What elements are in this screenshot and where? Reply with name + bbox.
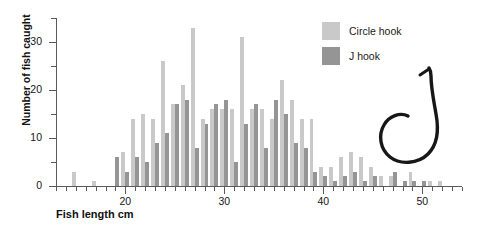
bar-circle-hook: [92, 181, 96, 186]
legend-swatch-circle-hook: [322, 22, 340, 40]
x-tick-minor: [244, 187, 245, 191]
x-tick-major: [125, 187, 126, 194]
bar-j-hook: [165, 133, 169, 186]
bar-j-hook: [264, 148, 268, 186]
bar-j-hook: [155, 143, 159, 186]
x-tick-minor: [403, 187, 404, 191]
x-tick-minor: [214, 187, 215, 191]
bar-j-hook: [214, 104, 218, 186]
x-tick-minor: [86, 187, 87, 191]
x-tick-minor: [284, 187, 285, 191]
x-axis-line: [56, 186, 462, 187]
x-tick-minor: [373, 187, 374, 191]
x-tick-minor: [294, 187, 295, 191]
y-tick-label: 0: [12, 179, 42, 191]
bar-circle-hook: [379, 176, 383, 186]
y-axis-title: Number of fish caught: [20, 0, 32, 150]
bar-j-hook: [125, 172, 129, 186]
bar-j-hook: [343, 176, 347, 186]
x-tick-minor: [56, 187, 57, 191]
x-tick-minor: [135, 187, 136, 191]
x-tick-minor: [66, 187, 67, 191]
x-tick-minor: [254, 187, 255, 191]
x-tick-minor: [145, 187, 146, 191]
x-tick-label: 20: [112, 195, 138, 207]
x-tick-minor: [205, 187, 206, 191]
circle-hook-illustration: [372, 62, 472, 174]
x-tick-minor: [115, 187, 116, 191]
x-tick-minor: [383, 187, 384, 191]
y-tick-major: [49, 90, 56, 91]
x-tick-minor: [304, 187, 305, 191]
x-tick-minor: [333, 187, 334, 191]
x-tick-minor: [234, 187, 235, 191]
bar-j-hook: [205, 124, 209, 186]
chart-figure: 0102030 20304050 Number of fish caught F…: [0, 0, 480, 234]
bar-j-hook: [313, 172, 317, 186]
bar-j-hook: [274, 100, 278, 186]
x-tick-minor: [442, 187, 443, 191]
x-tick-label: 50: [409, 195, 435, 207]
bar-j-hook: [115, 157, 119, 186]
x-tick-major: [224, 187, 225, 194]
x-tick-major: [422, 187, 423, 194]
x-tick-minor: [363, 187, 364, 191]
bar-j-hook: [333, 181, 337, 186]
x-tick-label: 30: [211, 195, 237, 207]
bar-j-hook: [244, 124, 248, 186]
x-tick-minor: [452, 187, 453, 191]
x-tick-major: [323, 187, 324, 194]
x-tick-minor: [313, 187, 314, 191]
bar-j-hook: [195, 148, 199, 186]
bar-j-hook: [254, 104, 258, 186]
legend-label-circle-hook: Circle hook: [349, 25, 402, 37]
x-tick-minor: [106, 187, 107, 191]
y-tick-major: [49, 42, 56, 43]
x-tick-minor: [393, 187, 394, 191]
bar-j-hook: [294, 143, 298, 186]
x-tick-minor: [185, 187, 186, 191]
bar-j-hook: [304, 148, 308, 186]
bar-j-hook: [284, 114, 288, 186]
bar-j-hook: [145, 162, 149, 186]
bar-circle-hook: [428, 181, 432, 186]
x-tick-minor: [96, 187, 97, 191]
x-tick-minor: [412, 187, 413, 191]
x-tick-minor: [76, 187, 77, 191]
bar-j-hook: [353, 172, 357, 186]
x-tick-minor: [155, 187, 156, 191]
bar-j-hook: [373, 176, 377, 186]
x-tick-minor: [175, 187, 176, 191]
bar-j-hook: [185, 100, 189, 186]
x-tick-minor: [195, 187, 196, 191]
bar-j-hook: [403, 181, 407, 186]
bar-circle-hook: [438, 181, 442, 186]
x-tick-minor: [264, 187, 265, 191]
bar-j-hook: [224, 100, 228, 186]
x-tick-minor: [274, 187, 275, 191]
bar-j-hook: [175, 104, 179, 186]
bar-j-hook: [363, 181, 367, 186]
x-tick-minor: [432, 187, 433, 191]
legend-swatch-j-hook: [322, 47, 340, 65]
x-tick-minor: [462, 187, 463, 191]
bar-j-hook: [412, 181, 416, 186]
x-tick-label: 40: [310, 195, 336, 207]
bar-j-hook: [323, 176, 327, 186]
bar-j-hook: [135, 157, 139, 186]
legend-item-circle-hook[interactable]: Circle hook: [322, 22, 402, 40]
x-tick-minor: [343, 187, 344, 191]
legend-label-j-hook: J hook: [349, 50, 380, 62]
y-tick-major: [49, 186, 56, 187]
bar-j-hook: [234, 162, 238, 186]
y-tick-major: [49, 138, 56, 139]
bar-j-hook: [422, 181, 426, 186]
x-tick-minor: [353, 187, 354, 191]
x-axis-title: Fish length cm: [56, 208, 206, 220]
x-tick-minor: [165, 187, 166, 191]
bar-circle-hook: [72, 172, 76, 186]
